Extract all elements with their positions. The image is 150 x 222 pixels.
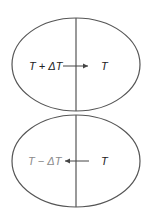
- top-ellipse-group: T + ΔT T: [12, 18, 140, 111]
- heat-flow-diagram: T + ΔT T T − ΔT T: [0, 0, 150, 222]
- bottom-left-label: T − ΔT: [28, 155, 63, 167]
- top-left-label: T + ΔT: [29, 60, 64, 72]
- bottom-ellipse-group: T − ΔT T: [12, 115, 140, 207]
- top-right-label: T: [101, 60, 109, 72]
- bottom-right-label: T: [101, 155, 109, 167]
